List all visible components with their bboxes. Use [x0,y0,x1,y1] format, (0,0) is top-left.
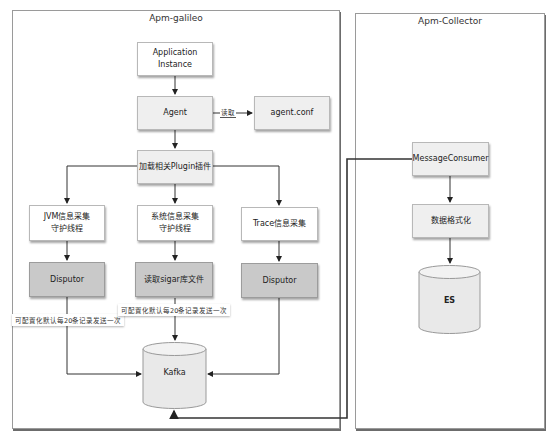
trace-disputor-node: Disputor [241,263,318,298]
read-edge-label: 读取 [220,107,236,118]
plugin-loader-label: 加载相关Plugin插件 [139,161,212,173]
data-formatter-node: 数据格式化 [412,204,489,238]
sigar-reader-node: 读取sigar库文件 [135,262,213,297]
trace-collector-node: Trace信息采集 [241,207,318,241]
jvm-disputor-label: Disputor [50,274,84,286]
jvm-disputor-node: Disputor [29,262,105,297]
jvm-batch-note: 可配置化默认每20条记录发送一次 [12,314,124,326]
es-label: ES [419,296,480,305]
trace-disputor-label: Disputor [262,275,296,287]
agent-conf-label: agent.conf [271,107,314,119]
jvm-collector-node: JVM信息采集 守护线程 [29,205,105,241]
agent-conf-node: agent.conf [254,96,330,130]
sigar-reader-label: 读取sigar库文件 [144,274,204,286]
sys-batch-note: 可配置化默认每20条记录发送一次 [118,304,230,316]
data-formatter-label: 数据格式化 [431,215,471,227]
application-instance-node: Application Instance [137,42,213,76]
sys-collector-label-1: 系统信息采集 [151,211,199,223]
jvm-collector-label-1: JVM信息采集 [44,211,91,223]
agent-label: Agent [163,107,187,119]
plugin-loader-node: 加载相关Plugin插件 [137,150,213,184]
trace-collector-label: Trace信息采集 [253,218,306,230]
sys-collector-node: 系统信息采集 守护线程 [137,205,213,241]
application-instance-label: Application Instance [138,47,212,71]
sys-collector-label-2: 守护线程 [159,223,191,235]
kafka-label: Kafka [143,368,206,377]
message-consumer-label: MessageConsumer [413,153,489,165]
message-consumer-node: MessageConsumer [412,142,489,176]
agent-node: Agent [137,96,213,130]
jvm-collector-label-2: 守护线程 [51,223,83,235]
